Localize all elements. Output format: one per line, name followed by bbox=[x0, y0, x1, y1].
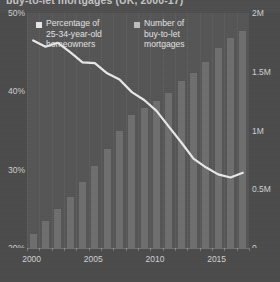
x-tick-mark bbox=[237, 248, 238, 251]
x-tick-mark bbox=[113, 248, 114, 251]
chart-title: buy-to-let mortgages (UK, 2000-17) bbox=[6, 0, 183, 6]
x-tick-mark bbox=[64, 248, 65, 251]
y-axis-left: 50%40%30%20% bbox=[0, 13, 27, 248]
x-tick-mark bbox=[126, 248, 127, 251]
y-right-tick-0.5M: 0.5M bbox=[252, 184, 271, 194]
x-tick-mark bbox=[175, 248, 176, 251]
legend-label-bars-line2: 25-34-year-old bbox=[46, 29, 102, 40]
x-tick-mark bbox=[249, 248, 250, 251]
x-tick-mark bbox=[89, 248, 90, 251]
x-tick-mark bbox=[52, 248, 53, 251]
x-tick-mark bbox=[76, 248, 77, 251]
x-tick-mark bbox=[101, 248, 102, 251]
legend-swatch-line-icon bbox=[134, 22, 140, 28]
x-tick-mark bbox=[150, 248, 151, 251]
y-right-tick-2M: 2M bbox=[252, 8, 264, 18]
y-left-tick-40%: 40% bbox=[8, 86, 25, 96]
y-axis-right: 2M1.5M1M0.5M0 bbox=[249, 13, 280, 248]
y-right-tick-1.5M: 1.5M bbox=[252, 67, 271, 77]
chart-title-strip: buy-to-let mortgages (UK, 2000-17) bbox=[0, 0, 280, 13]
y-right-tick-1M: 1M bbox=[252, 126, 264, 136]
x-tick-2010: 2010 bbox=[146, 254, 165, 264]
legend-swatch-bars-icon bbox=[36, 22, 42, 28]
legend-label-line-line3: mortgages bbox=[144, 39, 185, 50]
x-tick-2015: 2015 bbox=[207, 254, 226, 264]
legend-label-bars-line1: Percentage of bbox=[46, 18, 102, 29]
legend-label-bars-line3: homeowners bbox=[46, 39, 102, 50]
legend-label-line-line1: Number of bbox=[144, 18, 185, 29]
chart-legend: Percentage of 25-34-year-old homeowners … bbox=[36, 19, 226, 61]
x-tick-mark bbox=[163, 248, 164, 251]
x-axis: 2000200520102015 bbox=[0, 248, 280, 282]
legend-label-line: Number of buy-to-let mortgages bbox=[144, 18, 185, 50]
legend-label-bars: Percentage of 25-34-year-old homeowners bbox=[46, 18, 102, 50]
x-tick-mark bbox=[27, 248, 28, 251]
x-tick-mark bbox=[39, 248, 40, 251]
x-tick-mark bbox=[138, 248, 139, 251]
x-tick-mark bbox=[224, 248, 225, 251]
x-tick-2000: 2000 bbox=[22, 254, 41, 264]
x-tick-mark bbox=[187, 248, 188, 251]
y-left-tick-30%: 30% bbox=[8, 165, 25, 175]
chart-figure: buy-to-let mortgages (UK, 2000-17) 50%40… bbox=[0, 0, 280, 282]
legend-label-line-line2: buy-to-let bbox=[144, 29, 185, 40]
x-tick-2005: 2005 bbox=[84, 254, 103, 264]
x-tick-mark bbox=[212, 248, 213, 251]
x-tick-mark bbox=[200, 248, 201, 251]
y-left-tick-50%: 50% bbox=[8, 8, 25, 18]
